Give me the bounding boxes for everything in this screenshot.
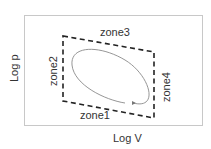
zone3-label: zone3 <box>100 26 130 38</box>
pv-diagram: zone3 zone1 zone2 zone4 Log V Log p <box>0 0 211 149</box>
x-axis-label: Log V <box>113 132 142 144</box>
zone1-label: zone1 <box>80 109 110 121</box>
zone4-label: zone4 <box>160 72 172 102</box>
zone2-label: zone2 <box>47 56 59 86</box>
y-axis-label: Log p <box>8 54 20 82</box>
